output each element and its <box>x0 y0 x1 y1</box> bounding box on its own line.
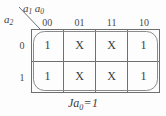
kmap-cell-r0c3: 1 <box>128 30 159 61</box>
kmap-cell-r1c3: 1 <box>128 62 159 93</box>
row-headers: 0 1 <box>14 29 30 93</box>
kmap-cell-r0c0: 1 <box>32 30 64 61</box>
caption-operator: = <box>83 96 92 110</box>
caption-subscript: 0 <box>79 103 83 112</box>
kmap-row-1: 1 X X 1 <box>32 62 159 93</box>
column-header-01: 01 <box>63 16 95 29</box>
caption-variable: Ja <box>68 96 79 110</box>
row-variable-label: a2 <box>4 14 13 25</box>
column-header-00: 00 <box>31 16 63 29</box>
kmap-row-0: 1 X X 1 <box>32 30 159 62</box>
karnaugh-map-figure: a1a0 a2 00 01 11 10 0 1 1 X X 1 1 X X 1 … <box>0 0 166 116</box>
kmap-cell-r0c2: X <box>96 30 128 61</box>
column-header-11: 11 <box>96 16 128 29</box>
column-headers: 00 01 11 10 <box>31 16 160 29</box>
caption-value: 1 <box>92 96 98 110</box>
row-header-0: 0 <box>14 29 30 61</box>
kmap-cell-r0c1: X <box>64 30 96 61</box>
kmap-cell-r1c2: X <box>96 62 128 93</box>
column-header-10: 10 <box>128 16 160 29</box>
column-variable-label: a1a0 <box>23 3 44 14</box>
kmap-cell-r1c1: X <box>64 62 96 93</box>
kmap-cell-r1c0: 1 <box>32 62 64 93</box>
row-header-1: 1 <box>14 61 30 93</box>
kmap-caption: Ja0=1 <box>0 96 166 111</box>
kmap-grid: 1 X X 1 1 X X 1 <box>31 29 160 93</box>
